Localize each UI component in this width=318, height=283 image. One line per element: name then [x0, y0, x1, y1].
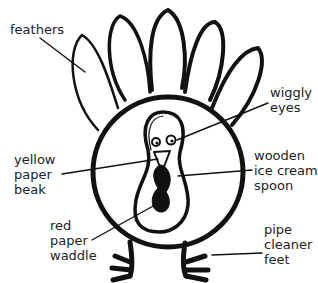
left-foot — [112, 242, 132, 280]
label-feathers: feathers — [10, 22, 64, 37]
label-wiggly-eyes: wiggly eyes — [270, 85, 312, 115]
label-pipe-cleaner-feet: pipe cleaner feet — [264, 222, 312, 267]
right-foot — [183, 243, 208, 280]
label-red-paper-waddle: red paper waddle — [50, 218, 97, 263]
label-wooden-ice-cream-spoon: wooden ice cream spoon — [254, 148, 318, 193]
label-yellow-paper-beak: yellow paper beak — [14, 152, 56, 197]
